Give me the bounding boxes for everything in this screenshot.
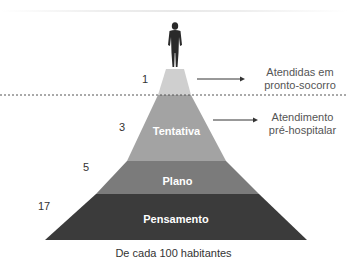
note-line: pré-hospitalar	[258, 124, 347, 137]
note-line: Atendidas em	[253, 66, 347, 79]
label-pensamento: Pensamento	[45, 213, 307, 225]
count-tip: 1	[142, 73, 148, 85]
person-icon	[168, 22, 182, 67]
label-plano: Plano	[96, 175, 259, 187]
arrow-right-icon	[197, 77, 245, 82]
note-line: pronto-socorro	[253, 79, 347, 92]
layer-tip	[158, 69, 191, 95]
note-line: Atendimento	[258, 111, 347, 124]
count-plano: 5	[83, 161, 89, 173]
note-pronto-socorro: Atendidas em pronto-socorro	[253, 66, 347, 92]
note-pre-hospitalar: Atendimento pré-hospitalar	[258, 111, 347, 137]
count-pensamento: 17	[38, 200, 50, 212]
count-tentativa: 3	[119, 121, 125, 133]
caption: De cada 100 habitantes	[0, 247, 347, 259]
arrow-right-icon	[213, 118, 258, 123]
label-tentativa: Tentativa	[127, 125, 226, 137]
